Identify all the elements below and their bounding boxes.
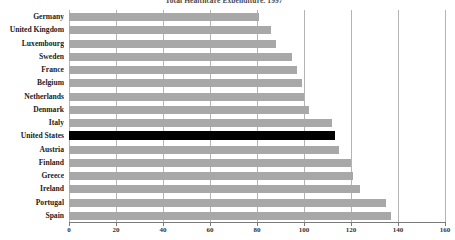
category-label: Germany bbox=[0, 10, 64, 24]
bar-row: France bbox=[0, 63, 448, 77]
bar-row: Luxembourg bbox=[0, 37, 448, 51]
x-axis-tick-label: 140 bbox=[383, 226, 413, 234]
bar-row: United States bbox=[0, 129, 448, 143]
category-label: Greece bbox=[0, 169, 64, 183]
category-label: Denmark bbox=[0, 103, 64, 117]
bar-row: Greece bbox=[0, 169, 448, 183]
bar-row: Denmark bbox=[0, 103, 448, 117]
bar bbox=[69, 79, 302, 87]
bar-row: Sweden bbox=[0, 50, 448, 64]
x-axis-tick-label: 80 bbox=[242, 226, 272, 234]
category-label: Luxembourg bbox=[0, 37, 64, 51]
chart-title: Total Healthcare Expenditure, 1997 bbox=[0, 0, 448, 3]
category-label: Belgium bbox=[0, 76, 64, 90]
x-axis-tick-label: 40 bbox=[148, 226, 178, 234]
bar bbox=[69, 66, 297, 74]
bar-highlighted bbox=[69, 131, 335, 140]
category-label: Italy bbox=[0, 116, 64, 130]
bar-row: Italy bbox=[0, 116, 448, 130]
x-axis-tick-label: 160 bbox=[430, 226, 455, 234]
bar-row: Finland bbox=[0, 156, 448, 170]
bar bbox=[69, 40, 276, 48]
bar-row: United Kingdom bbox=[0, 23, 448, 37]
category-label: Ireland bbox=[0, 182, 64, 196]
bar bbox=[69, 146, 339, 154]
category-label: Finland bbox=[0, 156, 64, 170]
category-label: United States bbox=[0, 129, 64, 143]
category-label: Portugal bbox=[0, 196, 64, 210]
bar bbox=[69, 93, 304, 101]
category-label: United Kingdom bbox=[0, 23, 64, 37]
x-axis-tick-label: 60 bbox=[195, 226, 225, 234]
category-label: Netherlands bbox=[0, 90, 64, 104]
category-label: Sweden bbox=[0, 50, 64, 64]
category-label: France bbox=[0, 63, 64, 77]
bar bbox=[69, 13, 259, 21]
bar-row: Austria bbox=[0, 143, 448, 157]
bar-row: Portugal bbox=[0, 196, 448, 210]
bar-row: Netherlands bbox=[0, 90, 448, 104]
x-axis-tick-label: 120 bbox=[336, 226, 366, 234]
bar bbox=[69, 212, 391, 220]
category-label: Austria bbox=[0, 143, 64, 157]
category-label: Spain bbox=[0, 209, 64, 223]
bar bbox=[69, 159, 351, 167]
bar bbox=[69, 53, 292, 61]
x-axis-tick-label: 0 bbox=[54, 226, 84, 234]
bar-row: Ireland bbox=[0, 182, 448, 196]
bar bbox=[69, 26, 271, 34]
bar-row: Germany bbox=[0, 10, 448, 24]
bar bbox=[69, 106, 309, 114]
x-axis-tick-label: 20 bbox=[101, 226, 131, 234]
x-axis-tick-label: 100 bbox=[289, 226, 319, 234]
bar bbox=[69, 185, 360, 193]
bar-row: Belgium bbox=[0, 76, 448, 90]
bar bbox=[69, 119, 332, 127]
bar-row: Spain bbox=[0, 209, 448, 223]
bar bbox=[69, 172, 353, 180]
bar bbox=[69, 199, 386, 207]
